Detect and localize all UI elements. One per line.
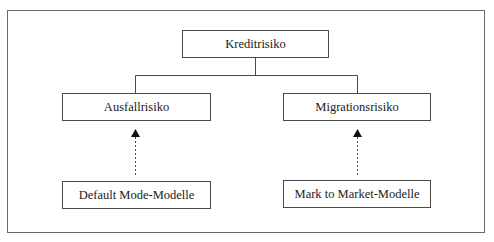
node-migrationsrisiko: Migrationsrisiko: [283, 93, 431, 121]
node-label: Mark to Market-Modelle: [295, 187, 420, 202]
node-ausfallrisiko: Ausfallrisiko: [62, 93, 211, 121]
node-label: Default Mode-Modelle: [79, 188, 195, 203]
arrow-up-icon: [131, 129, 140, 137]
node-label: Kreditrisiko: [225, 37, 285, 52]
arrow-up-icon: [353, 129, 362, 137]
node-kreditrisiko: Kreditrisiko: [182, 30, 329, 58]
node-default-mode-modelle: Default Mode-Modelle: [62, 181, 211, 209]
node-mark-to-market-modelle: Mark to Market-Modelle: [283, 180, 431, 208]
node-label: Ausfallrisiko: [104, 100, 169, 115]
node-label: Migrationsrisiko: [315, 100, 398, 115]
